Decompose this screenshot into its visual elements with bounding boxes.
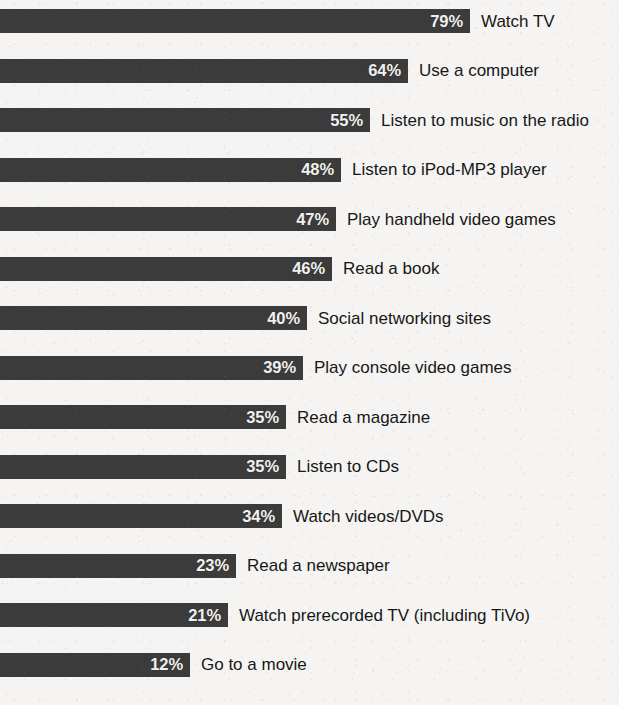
bar: 64% bbox=[0, 59, 408, 83]
bar-category-label: Read a magazine bbox=[297, 409, 430, 426]
bar-row: 34%Watch videos/DVDs bbox=[0, 504, 619, 528]
bar-value-label: 39% bbox=[263, 359, 296, 376]
bar-value-label: 34% bbox=[242, 508, 275, 525]
bar-category-label: Read a book bbox=[343, 260, 439, 277]
bar: 40% bbox=[0, 306, 307, 330]
bar-row: 12%Go to a movie bbox=[0, 653, 619, 677]
bar-category-label: Watch videos/DVDs bbox=[293, 508, 444, 525]
bar-row: 47%Play handheld video games bbox=[0, 207, 619, 231]
bar: 46% bbox=[0, 257, 332, 281]
bar: 35% bbox=[0, 455, 286, 479]
bar-row: 39%Play console video games bbox=[0, 356, 619, 380]
bar-value-label: 23% bbox=[196, 557, 229, 574]
bar-row: 21%Watch prerecorded TV (including TiVo) bbox=[0, 603, 619, 627]
bar-value-label: 21% bbox=[188, 607, 221, 624]
bar: 23% bbox=[0, 554, 236, 578]
bar-category-label: Social networking sites bbox=[318, 310, 491, 327]
bar: 39% bbox=[0, 356, 303, 380]
bar-category-label: Play handheld video games bbox=[347, 211, 556, 228]
bar-category-label: Play console video games bbox=[314, 359, 512, 376]
bar-category-label: Listen to music on the radio bbox=[381, 112, 589, 129]
bar-category-label: Read a newspaper bbox=[247, 557, 390, 574]
bar-category-label: Use a computer bbox=[419, 62, 539, 79]
bar-row: 23%Read a newspaper bbox=[0, 554, 619, 578]
bar-value-label: 12% bbox=[150, 656, 183, 673]
bar: 55% bbox=[0, 108, 370, 132]
bar-value-label: 47% bbox=[296, 211, 329, 228]
bar: 79% bbox=[0, 9, 470, 33]
bar-row: 40%Social networking sites bbox=[0, 306, 619, 330]
bar-value-label: 48% bbox=[301, 161, 334, 178]
bar-category-label: Watch prerecorded TV (including TiVo) bbox=[239, 607, 530, 624]
bar-row: 55%Listen to music on the radio bbox=[0, 108, 619, 132]
bar-value-label: 35% bbox=[246, 458, 279, 475]
bar-value-label: 35% bbox=[246, 409, 279, 426]
bar: 21% bbox=[0, 603, 228, 627]
bar-value-label: 64% bbox=[368, 62, 401, 79]
bar-row: 46%Read a book bbox=[0, 257, 619, 281]
bar-category-label: Listen to iPod-MP3 player bbox=[352, 161, 547, 178]
bar-row: 64%Use a computer bbox=[0, 59, 619, 83]
horizontal-bar-chart: 79%Watch TV64%Use a computer55%Listen to… bbox=[0, 0, 619, 705]
bar-row: 35%Read a magazine bbox=[0, 405, 619, 429]
bar: 34% bbox=[0, 504, 282, 528]
bar: 35% bbox=[0, 405, 286, 429]
bar-category-label: Watch TV bbox=[481, 13, 555, 30]
bar: 48% bbox=[0, 158, 341, 182]
bar-value-label: 40% bbox=[267, 310, 300, 327]
bar-value-label: 46% bbox=[292, 260, 325, 277]
bar-row: 79%Watch TV bbox=[0, 9, 619, 33]
bar: 47% bbox=[0, 207, 336, 231]
bar-row: 35%Listen to CDs bbox=[0, 455, 619, 479]
bar: 12% bbox=[0, 653, 190, 677]
bar-value-label: 79% bbox=[430, 13, 463, 30]
bar-row: 48%Listen to iPod-MP3 player bbox=[0, 158, 619, 182]
bar-value-label: 55% bbox=[330, 112, 363, 129]
bar-category-label: Listen to CDs bbox=[297, 458, 399, 475]
bar-category-label: Go to a movie bbox=[201, 656, 307, 673]
